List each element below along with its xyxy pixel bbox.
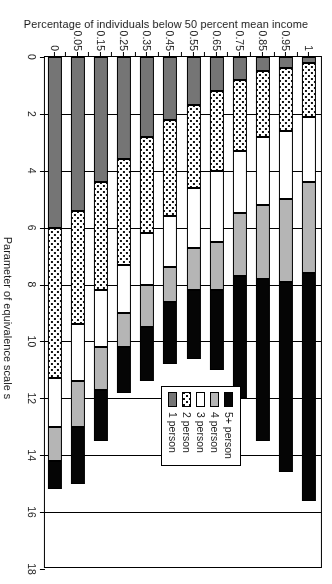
value-axis-tick-label: 16 bbox=[26, 506, 38, 518]
stacked-bar bbox=[302, 57, 316, 569]
legend-swatch-icon bbox=[196, 392, 205, 407]
category-axis-minor-tick bbox=[227, 52, 228, 57]
chart-figure: Percentage of individuals below 50 perce… bbox=[0, 0, 332, 584]
bar-segment bbox=[48, 378, 62, 426]
legend-swatch-icon bbox=[210, 392, 219, 407]
category-axis-tick-mark bbox=[193, 52, 194, 57]
category-axis-tick-mark bbox=[77, 52, 78, 57]
bar-segment bbox=[210, 91, 224, 171]
category-axis-minor-tick bbox=[112, 52, 113, 57]
bar-segment bbox=[163, 57, 177, 120]
category-axis-tick-mark bbox=[100, 52, 101, 57]
bar-segment bbox=[94, 390, 108, 441]
value-axis-tick-mark bbox=[40, 398, 45, 399]
bar-segment bbox=[187, 248, 201, 291]
value-axis-tick-mark bbox=[40, 228, 45, 229]
bar-segment bbox=[210, 57, 224, 91]
category-axis-tick-mark bbox=[308, 52, 309, 57]
bar-segment bbox=[210, 290, 224, 370]
bar-segment bbox=[48, 461, 62, 489]
legend-swatch-icon bbox=[224, 392, 233, 407]
category-axis-tick-label: 0.85 bbox=[257, 31, 269, 51]
bar-segment bbox=[279, 68, 293, 131]
stacked-bar bbox=[71, 57, 85, 569]
value-axis-tick-label: 8 bbox=[26, 282, 38, 288]
category-axis-tick-mark bbox=[54, 52, 55, 57]
value-axis-tick-label: 0 bbox=[26, 54, 38, 60]
bar-segment bbox=[256, 279, 270, 441]
legend-item-label: 3 person bbox=[195, 412, 207, 453]
bar-segment bbox=[210, 171, 224, 242]
category-axis-minor-tick bbox=[181, 52, 182, 57]
legend-item: 1 person bbox=[166, 392, 180, 459]
stacked-bar bbox=[117, 57, 131, 569]
bar-segment bbox=[94, 57, 108, 182]
category-axis-minor-tick bbox=[65, 52, 66, 57]
bar-segment bbox=[140, 137, 154, 234]
bar-segment bbox=[279, 199, 293, 281]
value-axis-tick-label: 4 bbox=[26, 168, 38, 174]
value-axis-tick-label: 12 bbox=[26, 392, 38, 404]
category-axis-tick-label: 0.05 bbox=[72, 31, 84, 51]
category-axis-tick-label: 0 bbox=[49, 45, 61, 51]
bar-segment bbox=[117, 347, 131, 393]
bar-segment bbox=[302, 117, 316, 182]
value-axis-tick-label: 18 bbox=[26, 563, 38, 575]
bar-segment bbox=[71, 324, 85, 381]
category-axis-minor-tick bbox=[88, 52, 89, 57]
category-axis-minor-tick bbox=[297, 52, 298, 57]
bar-segment bbox=[140, 285, 154, 328]
bar-segment bbox=[302, 273, 316, 501]
category-axis-tick-label: 0.65 bbox=[211, 31, 223, 51]
category-axis-tick-mark bbox=[169, 52, 170, 57]
bar-segment bbox=[233, 57, 247, 80]
bar-segment bbox=[187, 57, 201, 105]
category-axis-minor-tick bbox=[251, 52, 252, 57]
category-axis-tick-mark bbox=[216, 52, 217, 57]
bar-segment bbox=[256, 71, 270, 136]
bar-segment bbox=[233, 276, 247, 398]
bar-segment bbox=[94, 182, 108, 290]
value-axis-tick-label: 2 bbox=[26, 111, 38, 117]
bar-segment bbox=[48, 427, 62, 461]
bar-segment bbox=[71, 427, 85, 484]
bar-segment bbox=[94, 347, 108, 390]
category-axis-tick-mark bbox=[146, 52, 147, 57]
category-axis-tick-mark bbox=[239, 52, 240, 57]
value-axis-tick-mark bbox=[40, 57, 45, 58]
category-axis-minor-tick bbox=[274, 52, 275, 57]
legend-item-label: 2 person bbox=[181, 412, 193, 453]
legend-item-label: 5+ person bbox=[223, 412, 235, 459]
category-axis-tick-label: 0.75 bbox=[234, 31, 246, 51]
bar-segment bbox=[140, 233, 154, 284]
bar-segment bbox=[48, 228, 62, 379]
x-axis-title: Parameter of equivalence scale s bbox=[2, 60, 14, 576]
bar-segment bbox=[163, 216, 177, 267]
legend-item: 4 person bbox=[208, 392, 222, 459]
stacked-bar bbox=[233, 57, 247, 569]
category-axis-minor-tick bbox=[158, 52, 159, 57]
bar-segment bbox=[233, 80, 247, 151]
category-axis-tick-label: 0.45 bbox=[164, 31, 176, 51]
legend: 5+ person4 person3 person2 person1 perso… bbox=[161, 386, 241, 466]
legend-item-label: 1 person bbox=[167, 412, 179, 453]
plot-area: 02468101214161800.050.150.250.350.450.55… bbox=[44, 56, 322, 568]
category-axis-tick-mark bbox=[123, 52, 124, 57]
value-axis-tick-mark bbox=[40, 285, 45, 286]
category-axis-tick-mark bbox=[285, 52, 286, 57]
value-axis-tick-mark bbox=[40, 114, 45, 115]
bar-segment bbox=[117, 159, 131, 264]
value-axis-tick-mark bbox=[40, 341, 45, 342]
bar-segment bbox=[187, 290, 201, 358]
stacked-bar bbox=[94, 57, 108, 569]
category-axis-tick-label: 0.95 bbox=[280, 31, 292, 51]
category-axis-tick-label: 0.25 bbox=[118, 31, 130, 51]
bar-segment bbox=[48, 57, 62, 228]
bar-segment bbox=[140, 57, 154, 137]
value-axis-tick-mark bbox=[40, 171, 45, 172]
category-axis-minor-tick bbox=[204, 52, 205, 57]
legend-swatch-icon bbox=[182, 392, 191, 407]
bar-segment bbox=[233, 151, 247, 214]
bar-segment bbox=[302, 182, 316, 273]
bar-segment bbox=[71, 211, 85, 325]
